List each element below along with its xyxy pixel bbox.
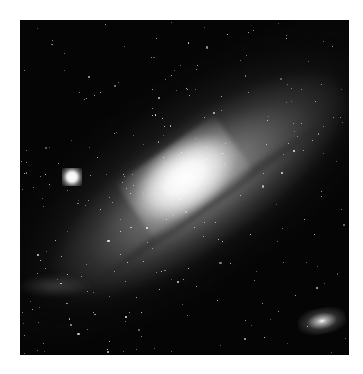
star xyxy=(87,329,88,330)
star xyxy=(266,144,267,145)
star xyxy=(297,136,298,137)
star xyxy=(156,38,157,39)
star xyxy=(321,84,322,85)
star xyxy=(250,234,251,235)
star xyxy=(45,147,47,149)
star xyxy=(40,260,41,261)
star xyxy=(152,115,153,116)
star xyxy=(303,150,304,151)
star xyxy=(49,184,50,185)
star xyxy=(342,122,344,124)
star xyxy=(306,262,307,263)
star xyxy=(195,185,196,186)
star xyxy=(224,164,225,165)
star xyxy=(204,27,205,28)
faint-nebula-patch xyxy=(20,275,90,297)
star xyxy=(123,174,124,175)
star xyxy=(141,336,142,337)
star xyxy=(341,89,342,90)
star xyxy=(24,335,25,336)
star xyxy=(173,215,174,216)
star xyxy=(38,322,39,323)
star xyxy=(332,46,333,47)
star xyxy=(183,279,184,280)
star xyxy=(126,188,127,189)
star xyxy=(277,241,278,242)
star xyxy=(70,324,72,326)
star xyxy=(24,173,25,174)
star xyxy=(345,338,346,339)
star xyxy=(125,316,127,318)
star xyxy=(286,38,287,39)
star xyxy=(187,315,188,316)
star xyxy=(90,175,91,176)
star xyxy=(130,227,132,229)
star xyxy=(60,283,62,285)
star xyxy=(186,88,187,89)
star xyxy=(222,153,223,154)
star xyxy=(262,185,264,187)
star xyxy=(230,263,231,264)
star xyxy=(227,34,228,35)
star xyxy=(23,323,24,324)
star xyxy=(64,53,65,54)
star xyxy=(278,311,279,312)
star xyxy=(268,116,269,117)
star xyxy=(293,123,294,124)
star xyxy=(66,303,68,305)
star xyxy=(120,231,122,233)
star xyxy=(333,117,334,118)
star xyxy=(153,57,155,59)
star xyxy=(146,227,148,229)
star xyxy=(133,135,134,136)
star xyxy=(79,92,81,94)
star xyxy=(94,95,95,96)
star xyxy=(69,318,71,320)
star xyxy=(106,174,107,175)
star xyxy=(136,297,137,298)
star xyxy=(40,176,41,177)
star xyxy=(107,349,108,350)
star xyxy=(343,224,345,226)
star xyxy=(323,126,324,127)
star xyxy=(264,337,265,338)
star xyxy=(206,147,207,148)
star xyxy=(254,280,255,281)
galaxy-dust-lane xyxy=(99,122,320,283)
star xyxy=(341,209,342,210)
star xyxy=(26,150,27,151)
star xyxy=(114,271,115,272)
star xyxy=(164,270,166,272)
star xyxy=(94,314,96,316)
star xyxy=(32,309,33,310)
star xyxy=(197,65,198,66)
star xyxy=(26,172,28,174)
star xyxy=(336,161,337,162)
star xyxy=(22,189,23,190)
star xyxy=(143,193,144,194)
star xyxy=(283,154,284,155)
star xyxy=(323,41,324,42)
star xyxy=(55,240,56,241)
star xyxy=(218,239,220,241)
star xyxy=(143,144,144,145)
star xyxy=(194,227,195,228)
star xyxy=(287,84,288,85)
star xyxy=(107,351,109,353)
star xyxy=(114,85,116,87)
star xyxy=(163,135,164,136)
star xyxy=(174,70,175,71)
star xyxy=(204,117,205,118)
star xyxy=(43,206,44,207)
star xyxy=(124,176,125,177)
star xyxy=(116,132,117,133)
star xyxy=(171,75,172,76)
star xyxy=(118,82,119,83)
star xyxy=(161,271,162,272)
star xyxy=(251,325,252,326)
star xyxy=(125,321,126,322)
star xyxy=(86,98,87,99)
star xyxy=(87,291,88,292)
star xyxy=(86,264,87,265)
star xyxy=(43,343,44,344)
